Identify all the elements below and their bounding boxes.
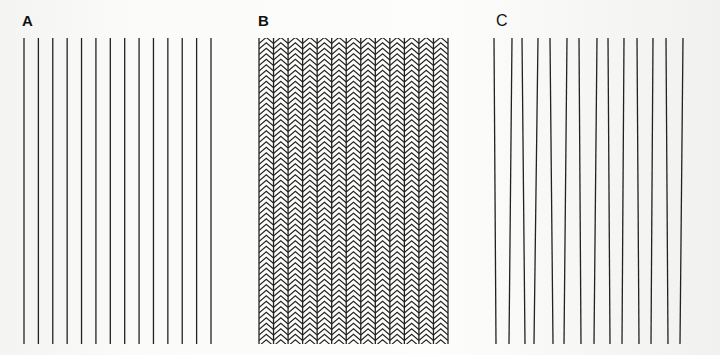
panel-c-tilted-lines <box>494 38 683 344</box>
line <box>594 38 597 344</box>
line <box>637 38 639 344</box>
line <box>550 38 553 344</box>
zollner-figure <box>0 0 720 355</box>
panel-b-chevron-lines <box>259 32 448 352</box>
line <box>680 38 683 344</box>
line <box>651 38 653 344</box>
line <box>494 38 496 344</box>
line <box>564 38 567 344</box>
line <box>509 38 512 344</box>
line <box>534 38 538 344</box>
line <box>579 38 581 344</box>
line <box>622 38 624 344</box>
line <box>608 38 610 344</box>
chevron-hatching <box>259 32 448 352</box>
panel-a-parallel-lines <box>24 38 211 344</box>
line <box>522 38 525 344</box>
line <box>666 38 668 344</box>
